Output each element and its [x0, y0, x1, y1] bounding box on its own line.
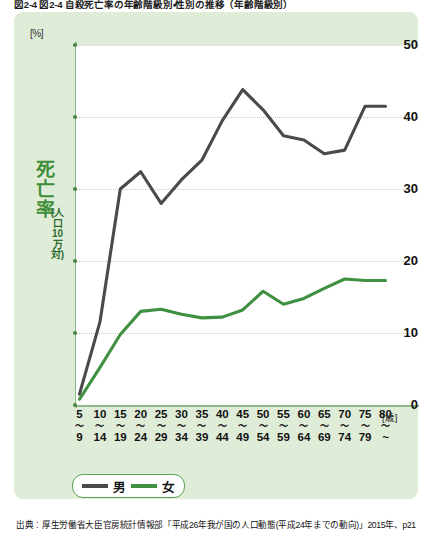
y-tick-label-30: 30 [372, 181, 418, 196]
legend-swatch-female [131, 484, 157, 487]
chart-legend: 男 女 [72, 474, 185, 498]
y-tick-label-10: 10 [372, 325, 418, 340]
x-axis-line [75, 405, 419, 407]
x-tick-labels: 5〜910〜1415〜1920〜2425〜2930〜3435〜3940〜4445… [14, 408, 418, 456]
y-axis-labels: [%] 死亡率 (人口10万対) [14, 12, 72, 412]
legend-label-female: 女 [162, 477, 175, 496]
chart-card: [%] 死亡率 (人口10万対) 01020304050 5〜910〜1415〜… [14, 12, 418, 499]
y-tick-dot-0 [73, 403, 77, 407]
legend-swatch-male [82, 484, 108, 487]
series-lines [76, 45, 418, 405]
x-axis-unit: [歳] [382, 410, 397, 424]
legend-label-male: 男 [113, 477, 126, 496]
figure-title: 図2-4 図2-4 自殺死亡率の年齢階級別・性別の推移（年齢階級別） [14, 0, 424, 9]
y-tick-dot-30 [73, 187, 77, 191]
y-axis-subtitle: (人口10万対) [50, 208, 65, 261]
y-tick-label-50: 50 [372, 37, 418, 52]
plot-area [76, 45, 418, 405]
series-line-女 [80, 279, 386, 399]
y-tick-dot-20 [73, 259, 77, 263]
y-axis-unit: [%] [30, 28, 43, 39]
source-note: 出典：厚生労働省大臣官房統計情報部「平成26年我が国の人口動態(平成24年までの… [16, 518, 416, 530]
y-tick-dot-10 [73, 331, 77, 335]
y-tick-dot-50 [73, 43, 77, 47]
series-line-男 [80, 90, 386, 395]
y-tick-dot-40 [73, 115, 77, 119]
y-tick-label-20: 20 [372, 253, 418, 268]
y-tick-label-40: 40 [372, 109, 418, 124]
